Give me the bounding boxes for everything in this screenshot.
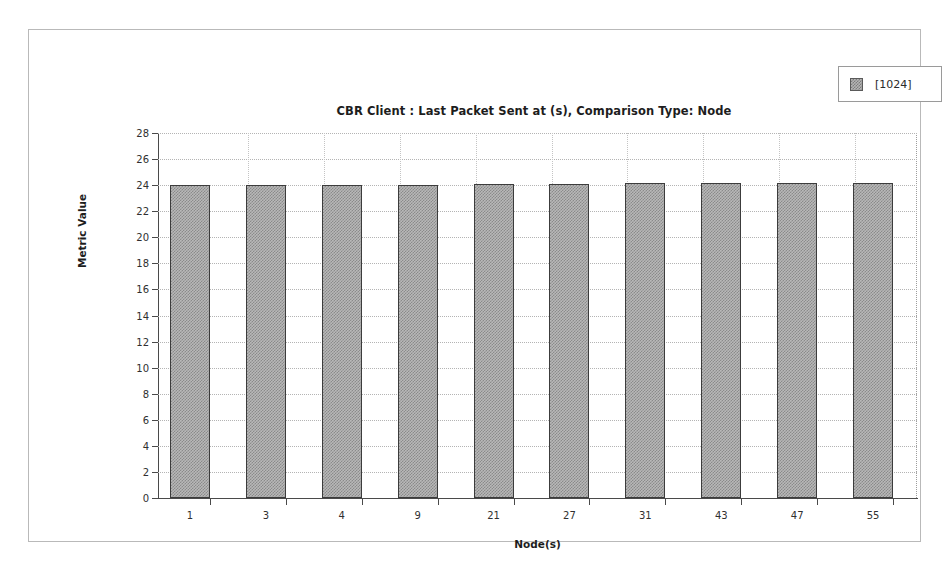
x-axis-tick-label: 1 <box>187 510 193 521</box>
y-axis-tick-label: 22 <box>136 206 149 217</box>
x-axis-tick-label: 55 <box>867 510 880 521</box>
y-axis-tick-label: 20 <box>136 232 149 243</box>
y-axis-tick-label: 0 <box>143 493 149 504</box>
x-axis-tick <box>362 498 363 505</box>
x-axis-tick-label: 27 <box>563 510 576 521</box>
y-gridline <box>158 159 917 160</box>
y-axis-tick-label: 10 <box>136 362 149 373</box>
bar[interactable] <box>322 185 362 499</box>
y-axis-tick <box>152 446 158 447</box>
bar[interactable] <box>853 183 893 498</box>
y-axis-tick <box>152 237 158 238</box>
y-axis-tick-label: 2 <box>143 466 149 477</box>
x-axis-tick <box>589 498 590 505</box>
y-axis-tick <box>152 289 158 290</box>
y-axis-title: Metric Value <box>76 194 88 268</box>
y-axis-tick-label: 24 <box>136 180 149 191</box>
chart-panel: [1024] CBR Client : Last Packet Sent at … <box>28 29 921 542</box>
legend-swatch-icon <box>850 78 863 91</box>
y-axis-tick <box>152 368 158 369</box>
y-axis-tick <box>152 211 158 212</box>
y-axis-tick-label: 18 <box>136 258 149 269</box>
x-axis-tick <box>665 498 666 505</box>
y-axis-tick-label: 4 <box>143 440 149 451</box>
bar[interactable] <box>701 183 741 498</box>
y-axis-tick <box>152 263 158 264</box>
y-gridline <box>158 133 917 134</box>
bar[interactable] <box>549 184 589 498</box>
y-axis-tick-label: 26 <box>136 154 149 165</box>
y-axis-tick-label: 6 <box>143 414 149 425</box>
x-axis-tick-label: 43 <box>715 510 728 521</box>
y-axis-tick-label: 28 <box>136 128 149 139</box>
chart-title: CBR Client : Last Packet Sent at (s), Co… <box>149 104 919 118</box>
bar[interactable] <box>777 183 817 498</box>
y-axis-tick <box>152 420 158 421</box>
x-axis-tick <box>438 498 439 505</box>
y-axis-tick <box>152 133 158 134</box>
bar[interactable] <box>170 185 210 498</box>
clipped-footer-text <box>86 561 386 570</box>
bar[interactable] <box>625 183 665 498</box>
y-axis-tick-label: 14 <box>136 310 149 321</box>
y-axis-tick <box>152 498 158 499</box>
x-axis-tick-label: 21 <box>487 510 500 521</box>
x-axis-title: Node(s) <box>158 538 917 550</box>
x-axis-tick <box>210 498 211 505</box>
bar[interactable] <box>398 185 438 499</box>
y-axis-tick <box>152 159 158 160</box>
x-axis-tick-label: 4 <box>339 510 345 521</box>
x-axis-tick <box>514 498 515 505</box>
y-axis-tick <box>152 316 158 317</box>
x-axis-tick <box>286 498 287 505</box>
x-axis-tick-label: 47 <box>791 510 804 521</box>
x-axis-tick <box>741 498 742 505</box>
y-axis-tick-label: 16 <box>136 284 149 295</box>
x-axis-tick-label: 9 <box>414 510 420 521</box>
x-axis-tick-label: 31 <box>639 510 652 521</box>
y-axis-tick <box>152 472 158 473</box>
x-axis-line <box>158 498 918 499</box>
legend-item-label: [1024] <box>875 78 912 91</box>
y-axis-tick <box>152 394 158 395</box>
bar[interactable] <box>246 185 286 499</box>
y-axis-tick <box>152 342 158 343</box>
y-axis-tick-label: 12 <box>136 336 149 347</box>
x-axis-tick <box>893 498 894 505</box>
y-axis-tick <box>152 185 158 186</box>
y-axis-tick-label: 8 <box>143 388 149 399</box>
plot-area: 0246810121416182022242628 13492127314347… <box>158 133 917 498</box>
x-axis-tick-label: 3 <box>263 510 269 521</box>
bar[interactable] <box>474 184 514 498</box>
chart-legend[interactable]: [1024] <box>838 66 942 102</box>
x-axis-tick <box>817 498 818 505</box>
